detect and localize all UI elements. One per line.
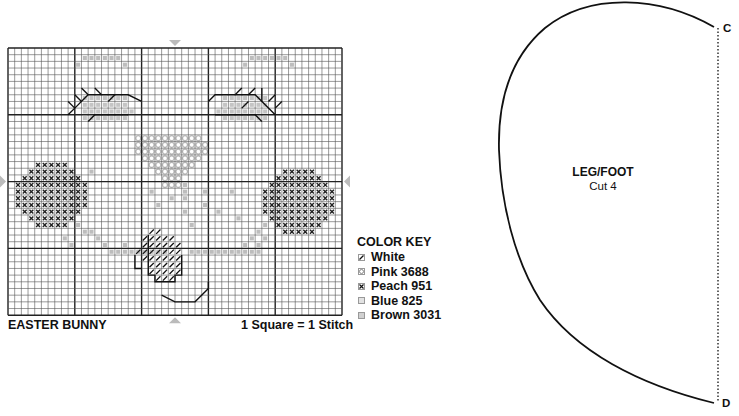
point-label-c: C bbox=[723, 22, 731, 34]
pattern-piece-instruction: Cut 4 bbox=[568, 179, 638, 193]
pattern-outline bbox=[499, 2, 714, 403]
point-label-d: D bbox=[722, 397, 730, 409]
leg-foot-pattern-piece bbox=[0, 0, 739, 416]
pattern-piece-title: LEG/FOOT bbox=[568, 165, 638, 179]
pattern-piece-name: LEG/FOOT Cut 4 bbox=[568, 165, 638, 193]
